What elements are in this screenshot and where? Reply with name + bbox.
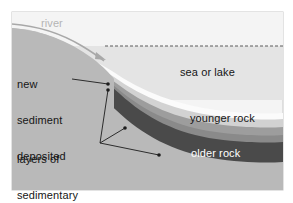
label-sea-or-lake: sea or lake xyxy=(180,66,235,78)
leader-dot-layers-1 xyxy=(106,88,110,92)
label-new-sediment-line-2: sediment xyxy=(17,114,66,126)
leader-dot-new-sediment xyxy=(106,82,110,86)
label-layers-line-1: layers of xyxy=(17,153,81,165)
sedimentary-rock-diagram: river new sediment deposited layers of s… xyxy=(0,0,293,203)
leader-dot-layers-2 xyxy=(123,126,127,130)
label-layers-build-up: layers of sedimentary rock build up xyxy=(17,129,81,203)
label-younger-rock: younger rock xyxy=(190,112,255,124)
label-river: river xyxy=(41,17,63,29)
leader-dot-layers-3 xyxy=(157,153,161,157)
label-new-sediment-line-1: new xyxy=(17,78,66,90)
label-layers-line-2: sedimentary xyxy=(17,189,81,201)
label-older-rock: older rock xyxy=(191,147,240,159)
